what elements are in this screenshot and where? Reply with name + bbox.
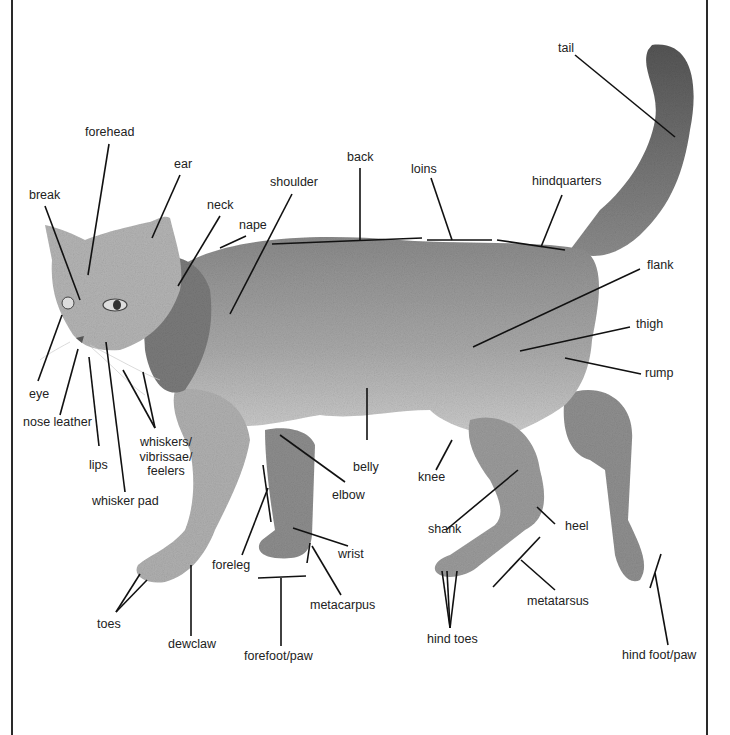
label-back: back xyxy=(347,150,373,164)
label-break: break xyxy=(29,188,60,202)
label-nose-leather: nose leather xyxy=(23,415,92,429)
label-foreleg: foreleg xyxy=(212,558,250,572)
label-whiskers: whiskers/ vibrissae/ feelers xyxy=(126,435,206,479)
label-rump: rump xyxy=(645,366,673,380)
label-whiskers-line2: vibrissae/ xyxy=(126,450,206,465)
label-hind-toes: hind toes xyxy=(427,632,478,646)
label-eye: eye xyxy=(29,387,49,401)
cat-whiskers xyxy=(40,342,160,395)
label-elbow: elbow xyxy=(332,488,365,502)
label-ear: ear xyxy=(174,157,192,171)
cat-eye-far xyxy=(62,297,74,309)
label-hind-foot-paw: hind foot/paw xyxy=(622,648,696,662)
label-toes: toes xyxy=(97,617,121,631)
label-knee: knee xyxy=(418,470,445,484)
label-thigh: thigh xyxy=(636,317,663,331)
cat-tail xyxy=(570,45,694,256)
label-dewclaw: dewclaw xyxy=(168,637,216,651)
label-metatarsus: metatarsus xyxy=(527,594,589,608)
label-whisker-pad: whisker pad xyxy=(92,494,159,508)
label-whiskers-line1: whiskers/ xyxy=(126,435,206,450)
label-hindquarters: hindquarters xyxy=(532,174,602,188)
label-shoulder: shoulder xyxy=(270,175,318,189)
label-shank: shank xyxy=(428,522,461,536)
label-heel: heel xyxy=(565,519,589,533)
label-neck: neck xyxy=(207,198,233,212)
label-whiskers-line3: feelers xyxy=(126,464,206,479)
label-metacarpus: metacarpus xyxy=(310,598,375,612)
label-forefoot-paw: forefoot/paw xyxy=(244,649,313,663)
label-loins: loins xyxy=(411,162,437,176)
label-nape: nape xyxy=(239,218,267,232)
label-belly: belly xyxy=(353,460,379,474)
label-tail: tail xyxy=(558,41,574,55)
cat-far-hind-leg xyxy=(564,390,644,581)
label-wrist: wrist xyxy=(338,547,364,561)
label-lips: lips xyxy=(89,458,108,472)
label-forehead: forehead xyxy=(85,125,134,139)
label-flank: flank xyxy=(647,258,673,272)
